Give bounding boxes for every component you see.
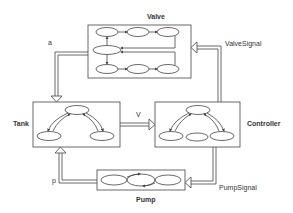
pump-signal-arrow	[185, 147, 216, 188]
tank-states	[37, 106, 114, 141]
valve-states	[93, 28, 179, 74]
tank-label: Tank	[13, 120, 29, 127]
valve-signal-arrow	[191, 42, 221, 102]
pump-states	[101, 174, 181, 186]
pump-label: Pump	[136, 196, 155, 203]
valve-label: Valve	[147, 13, 165, 20]
controller-states	[159, 106, 234, 142]
signal-v-arrow	[120, 119, 155, 130]
signal-p-arrow	[55, 147, 97, 183]
diagram-canvas	[0, 0, 293, 213]
signal-a-label: a	[48, 39, 52, 46]
pump-box	[97, 170, 185, 190]
signal-p-label: p	[52, 177, 56, 184]
pump-signal-label: PumpSignal	[219, 184, 257, 191]
valve-box	[88, 25, 191, 78]
signal-v-label: V	[136, 111, 141, 118]
controller-label: Controller	[247, 120, 280, 127]
valve-signal-label: ValveSignal	[225, 40, 261, 47]
signal-a-arrow	[51, 52, 88, 102]
